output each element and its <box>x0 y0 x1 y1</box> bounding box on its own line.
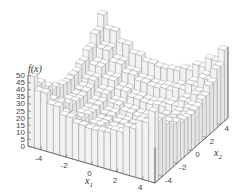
svg-text:50: 50 <box>16 71 25 80</box>
svg-text:-2: -2 <box>61 161 69 170</box>
x2-axis-label: x2 <box>213 147 222 161</box>
svg-text:-4: -4 <box>165 176 173 185</box>
svg-text:4: 4 <box>138 183 143 192</box>
svg-text:-2: -2 <box>179 163 187 172</box>
svg-text:2: 2 <box>113 176 118 185</box>
svg-text:0: 0 <box>195 150 200 159</box>
svg-text:-4: -4 <box>35 154 43 163</box>
svg-text:4: 4 <box>224 124 229 133</box>
surface-plot: 05101520253035404550 -4-2024 -4-2024 f(x… <box>0 0 240 196</box>
plot-canvas: 05101520253035404550 -4-2024 -4-2024 f(x… <box>0 0 240 196</box>
svg-text:2: 2 <box>210 137 215 146</box>
z-axis-label: f(x) <box>28 63 43 75</box>
